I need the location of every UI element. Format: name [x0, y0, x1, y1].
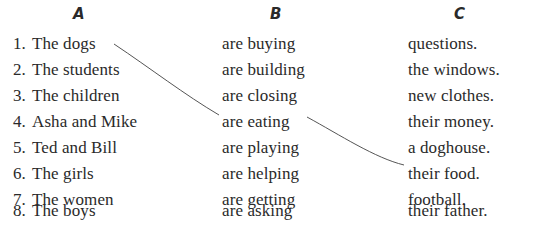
column-b-item-5: are playing [222, 138, 299, 158]
item-number: 6. [13, 164, 32, 184]
column-c-item-5: a doghouse. [408, 138, 490, 158]
column-a-item-5: 5.Ted and Bill [13, 138, 117, 158]
item-number: 5. [13, 138, 32, 158]
connection-line-b4-c6 [307, 117, 404, 165]
column-c-item-1: questions. [408, 34, 477, 54]
column-c-item-8: their father. [408, 201, 488, 221]
column-b-item-2: are building [222, 60, 305, 80]
column-b-item-8: are asking [222, 201, 292, 221]
subject-text: The dogs [32, 34, 96, 53]
column-b-item-1: are buying [222, 34, 295, 54]
connection-line-a1-b4 [114, 44, 219, 115]
item-number: 2. [13, 60, 32, 80]
column-a-item-6: 6.The girls [13, 164, 94, 184]
column-a-header: A [73, 5, 85, 23]
column-b-item-3: are closing [222, 86, 297, 106]
column-c-header: C [454, 5, 465, 23]
subject-text: The boys [32, 201, 96, 220]
column-a-item-4: 4.Asha and Mike [13, 112, 137, 132]
column-c-item-6: their food. [408, 164, 480, 184]
column-c-item-4: their money. [408, 112, 494, 132]
item-number: 8. [13, 201, 32, 221]
subject-text: Ted and Bill [32, 138, 117, 157]
column-a-item-3: 3.The children [13, 86, 120, 106]
item-number: 4. [13, 112, 32, 132]
column-c-item-3: new clothes. [408, 86, 494, 106]
column-b-header: B [270, 5, 281, 23]
matching-exercise: A B C 1.The dogs 2.The students 3.The ch… [0, 0, 535, 227]
item-number: 3. [13, 86, 32, 106]
subject-text: Asha and Mike [32, 112, 137, 131]
subject-text: The children [32, 86, 120, 105]
column-a-item-1: 1.The dogs [13, 34, 96, 54]
column-b-item-4: are eating [222, 112, 290, 132]
column-b-item-6: are helping [222, 164, 299, 184]
column-a-item-8: 8.The boys [13, 201, 96, 221]
subject-text: The girls [32, 164, 94, 183]
column-c-item-2: the windows. [408, 60, 500, 80]
column-a-item-2: 2.The students [13, 60, 120, 80]
subject-text: The students [32, 60, 120, 79]
item-number: 1. [13, 34, 32, 54]
